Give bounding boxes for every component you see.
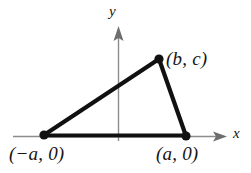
coordinate-figure: y x (b, c) (−a, 0) (a, 0) [0, 0, 251, 173]
vertex-dot-apex [154, 54, 163, 63]
vertex-dot-right [181, 131, 190, 140]
triangle-side-left [44, 59, 159, 135]
right-point-label: (a, 0) [156, 144, 198, 163]
left-point-label: (−a, 0) [9, 144, 64, 163]
y-axis-label: y [109, 4, 116, 19]
triangle-side-right [159, 59, 186, 136]
apex-point-label: (b, c) [166, 49, 207, 68]
vertex-dot-left [39, 130, 48, 139]
triangle-group [44, 59, 186, 136]
x-axis-label: x [233, 126, 240, 141]
